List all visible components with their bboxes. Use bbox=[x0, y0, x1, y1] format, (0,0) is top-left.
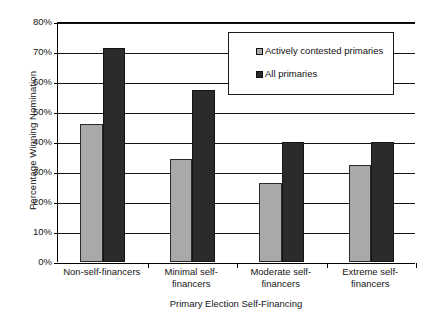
x-tickmark bbox=[416, 263, 417, 268]
x-category-label: Extreme self-financers bbox=[326, 266, 416, 289]
y-tick-label: 70% bbox=[24, 47, 52, 57]
y-tickmark bbox=[54, 113, 58, 114]
x-category-label: Moderate self-financers bbox=[236, 266, 326, 289]
x-category-label-line2: financers bbox=[326, 278, 416, 290]
chart-legend: Actively contested primariesAll primarie… bbox=[228, 32, 394, 95]
y-tick-label: 0% bbox=[24, 257, 52, 267]
bar bbox=[80, 124, 103, 262]
y-tickmark bbox=[54, 53, 58, 54]
bar-chart: Percentage Winning Nomination 0%10%20%30… bbox=[0, 0, 429, 320]
y-tickmark bbox=[54, 83, 58, 84]
x-category-label-line2: financers bbox=[236, 278, 326, 290]
y-tickmark bbox=[54, 233, 58, 234]
x-category-label-line1: Non-self-financers bbox=[57, 266, 147, 278]
y-tickmark bbox=[54, 143, 58, 144]
y-tick-label: 40% bbox=[24, 137, 52, 147]
bar bbox=[103, 48, 126, 263]
y-tickmark bbox=[54, 263, 58, 264]
x-category-label-line1: Moderate self- bbox=[236, 266, 326, 278]
bar bbox=[349, 165, 372, 263]
y-tickmark bbox=[54, 203, 58, 204]
y-tick-label: 50% bbox=[24, 107, 52, 117]
x-category-label-line1: Extreme self- bbox=[326, 266, 416, 278]
legend-entry: All primaries bbox=[256, 69, 317, 79]
y-tick-label: 20% bbox=[24, 197, 52, 207]
x-category-label: Non-self-financers bbox=[57, 266, 147, 278]
y-tick-label: 10% bbox=[24, 227, 52, 237]
y-tickmark bbox=[54, 173, 58, 174]
bar bbox=[192, 90, 215, 263]
y-tick-label: 60% bbox=[24, 77, 52, 87]
legend-label: Actively contested primaries bbox=[265, 46, 383, 56]
bar bbox=[282, 142, 305, 262]
x-category-label: Minimal self-financers bbox=[147, 266, 237, 289]
x-axis-title: Primary Election Self-Financing bbox=[57, 298, 415, 309]
x-category-label-line1: Minimal self-financers bbox=[147, 266, 237, 289]
y-tick-label: 80% bbox=[24, 17, 52, 27]
y-tickmark bbox=[54, 23, 58, 24]
legend-label: All primaries bbox=[265, 69, 317, 79]
gridline bbox=[58, 23, 415, 24]
legend-swatch-icon bbox=[256, 71, 263, 78]
bar bbox=[170, 159, 193, 263]
legend-swatch-icon bbox=[256, 48, 263, 55]
y-tick-label: 30% bbox=[24, 167, 52, 177]
bar bbox=[371, 142, 394, 262]
bar bbox=[259, 183, 282, 263]
y-axis-tick-labels: 0%10%20%30%40%50%60%70%80% bbox=[22, 0, 52, 320]
legend-entry: Actively contested primaries bbox=[256, 46, 383, 56]
